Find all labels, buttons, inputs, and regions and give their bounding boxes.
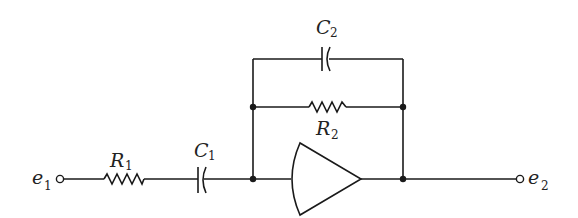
c1-label-subscript: 1 (208, 149, 216, 163)
terminal-circle-icon (516, 175, 523, 182)
amplifier-triangle-icon (292, 143, 361, 215)
resistor-r1: R 1 (104, 149, 144, 184)
resistor-icon (309, 102, 346, 112)
r2-label-subscript: 2 (331, 128, 339, 142)
junction-dot-icon (400, 104, 406, 110)
output-label: e (528, 166, 539, 188)
input-terminal: e 1 (32, 166, 64, 193)
output-terminal: e 2 (516, 166, 548, 193)
output-label-subscript: 2 (541, 179, 549, 193)
resistor-r2: R 2 (309, 102, 346, 142)
c1-label: C (194, 139, 209, 161)
capacitor-c1: C 1 (194, 139, 216, 193)
feedback-network: C 2 R 2 (250, 16, 406, 182)
input-label: e (32, 166, 43, 188)
c2-label-subscript: 2 (330, 26, 338, 40)
amplifier (292, 143, 361, 215)
input-label-subscript: 1 (44, 179, 52, 193)
circuit-diagram: e 1 R 1 C 1 C 2 (0, 0, 578, 218)
junction-dot-icon (250, 104, 256, 110)
r2-label: R (315, 117, 330, 139)
resistor-icon (104, 174, 144, 184)
capacitor-c2: C 2 (316, 16, 338, 71)
capacitor-curved-plate-icon (203, 167, 206, 193)
junction-dot-icon (250, 176, 256, 182)
r1-label-subscript: 1 (125, 159, 133, 173)
r1-label: R (109, 149, 124, 171)
terminal-circle-icon (56, 175, 63, 182)
c2-label: C (316, 16, 331, 38)
